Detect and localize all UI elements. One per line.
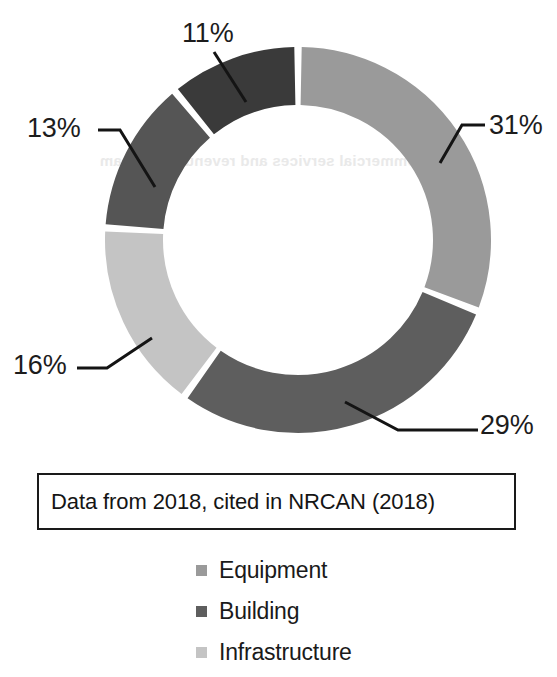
pct-label-16: 16% [13, 350, 66, 381]
donut-chart-svg [0, 0, 557, 470]
caption-box: Data from 2018, cited in NRCAN (2018) [37, 473, 516, 530]
legend-item[interactable]: Infrastructure [196, 632, 516, 673]
legend-swatch-icon [196, 606, 207, 617]
legend-item-label: Building [219, 598, 299, 625]
donut-chart-area: 11% 31% 13% 16% 29% [0, 0, 557, 470]
chart-legend: EquipmentBuildingInfrastructure [196, 550, 516, 673]
pct-label-29: 29% [480, 410, 533, 441]
caption-text: Data from 2018, cited in NRCAN (2018) [39, 489, 435, 515]
legend-item-label: Infrastructure [219, 639, 352, 666]
legend-swatch-icon [196, 565, 207, 576]
donut-chart-figure: The commercial services and revenues in … [0, 0, 557, 677]
donut-ring [134, 76, 462, 404]
donut-slice-11[interactable] [196, 76, 295, 112]
donut-slice-31[interactable] [301, 76, 462, 297]
pct-label-31: 31% [489, 110, 542, 141]
donut-slice-16[interactable] [134, 233, 199, 371]
legend-item-label: Equipment [219, 557, 327, 584]
donut-slice-13[interactable] [135, 116, 192, 227]
legend-item[interactable]: Building [196, 591, 516, 632]
legend-item[interactable]: Equipment [196, 550, 516, 591]
legend-swatch-icon [196, 647, 207, 658]
pct-label-11: 11% [182, 18, 233, 49]
donut-slice-29[interactable] [204, 303, 449, 404]
pct-label-13: 13% [27, 113, 80, 144]
